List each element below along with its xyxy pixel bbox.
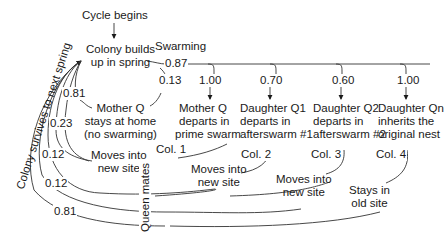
daughter-qn-line1: Daughter Qn — [378, 102, 444, 115]
col-4-label: Col. 4 — [375, 148, 407, 161]
daughter-qn-node: Daughter Qn inherits the original nest — [378, 102, 444, 141]
daughter-q1-line2: departs in — [240, 115, 313, 128]
moves-into-new-site-3: Moves into new site — [276, 173, 332, 199]
stays-line2: old site — [349, 197, 390, 210]
survival-prob-home: 0.81 — [62, 87, 86, 100]
mother-home-line1: Mother Q — [84, 102, 157, 115]
col-2-label: Col. 2 — [240, 148, 272, 161]
no-swarm-prob: 0.13 — [158, 74, 182, 87]
daughter-qn-line2: inherits the — [378, 115, 444, 128]
survival-prob-col3: 0.12 — [44, 177, 68, 190]
daughter-q2-line3: afterswarm #2 — [313, 128, 386, 141]
moves3-line1: Moves into — [276, 173, 332, 186]
cycle-begins-label: Cycle begins — [82, 9, 148, 22]
daughter-q2-line1: Daughter Q2 — [313, 102, 386, 115]
mother-home-line2: stays at home — [84, 115, 157, 128]
mother-home-node: Mother Q stays at home (no swarming) — [84, 102, 157, 141]
colony-builds-line1: Colony builds — [86, 43, 155, 56]
col-1-label: Col. 1 — [155, 143, 187, 156]
mother-departs-line1: Mother Q — [175, 102, 241, 115]
prob-daughter-q2: 0.60 — [331, 74, 355, 87]
swarming-label: Swarming — [155, 40, 206, 53]
daughter-q2-node: Daughter Q2 departs in afterswarm #2 — [313, 102, 386, 141]
moves-into-new-site-2: Moves into new site — [191, 163, 247, 189]
daughter-q2-line2: departs in — [313, 115, 386, 128]
prob-daughter-q1: 0.70 — [259, 74, 283, 87]
moves1-line1: Moves into — [91, 149, 147, 162]
prob-mother-departs: 1.00 — [198, 74, 222, 87]
col-3-label: Col. 3 — [310, 148, 342, 161]
survival-prob-col1: 0.23 — [49, 117, 73, 130]
daughter-q1-line3: afterswarm #1 — [240, 128, 313, 141]
mother-home-line3: (no swarming) — [84, 128, 157, 141]
mother-departs-line2: departs in — [175, 115, 241, 128]
prob-daughter-qn: 1.00 — [396, 74, 420, 87]
moves3-line2: new site — [276, 186, 332, 199]
stays-in-old-site: Stays in old site — [349, 184, 390, 210]
survival-prob-col2: 0.12 — [41, 148, 65, 161]
mother-departs-line3: prime swarm — [175, 128, 241, 141]
daughter-q1-node: Daughter Q1 departs in afterswarm #1 — [240, 102, 313, 141]
moves2-line2: new site — [191, 176, 247, 189]
colony-builds-node: Colony builds up in spring — [86, 43, 155, 69]
moves2-line1: Moves into — [191, 163, 247, 176]
stays-line1: Stays in — [349, 184, 390, 197]
daughter-q1-line1: Daughter Q1 — [240, 102, 313, 115]
colony-builds-line2: up in spring — [86, 56, 155, 69]
daughter-qn-line3: original nest — [378, 128, 444, 141]
queen-mates-label: Queen mates — [139, 163, 151, 232]
mother-departs-node: Mother Q departs in prime swarm — [175, 102, 241, 141]
survival-prob-col4: 0.81 — [53, 205, 77, 218]
swarming-prob: 0.87 — [164, 57, 188, 70]
